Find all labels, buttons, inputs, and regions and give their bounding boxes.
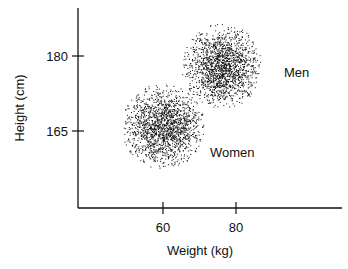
y-tick-label-180: 180 bbox=[46, 49, 68, 64]
y-axis-title: Height (cm) bbox=[12, 74, 27, 141]
women-label: Women bbox=[210, 145, 255, 160]
x-axis-title: Weight (kg) bbox=[167, 243, 233, 258]
x-tick-label-60: 60 bbox=[156, 220, 170, 235]
x-tick-label-80: 80 bbox=[229, 220, 243, 235]
men-label: Men bbox=[284, 65, 309, 80]
y-tick-label-165: 165 bbox=[46, 124, 68, 139]
scatter-chart: 180 165 60 80 Weight (kg) Height (cm) Me… bbox=[0, 0, 348, 269]
